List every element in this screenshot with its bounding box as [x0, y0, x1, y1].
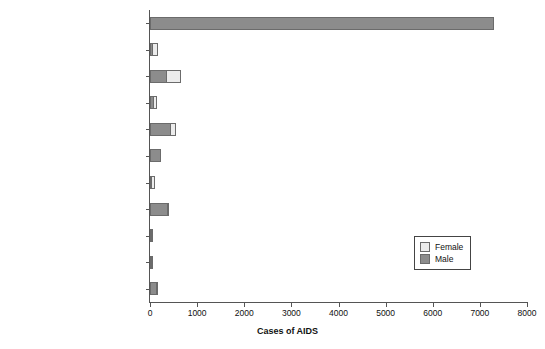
- legend-label-male: Male: [435, 254, 453, 264]
- x-axis-tick-label: 8000: [518, 308, 537, 318]
- chart-row: Mother to infant: [150, 169, 527, 196]
- chart-row: Heterosexual intercourse with partner fr…: [150, 90, 527, 117]
- bar-group: [150, 96, 157, 109]
- legend-item: Female: [420, 241, 463, 253]
- bar-group: [150, 70, 181, 83]
- x-axis-tick: [291, 302, 292, 307]
- x-axis-tick-label: 1000: [188, 308, 207, 318]
- chart-row: Sexual intercourse between men: [150, 10, 527, 37]
- bar-group: [150, 229, 153, 242]
- x-axis-tick: [150, 302, 151, 307]
- x-axis-tick: [339, 302, 340, 307]
- chart-row: Unclassified: [150, 275, 527, 302]
- bar-group: [150, 176, 155, 189]
- chart-row: Injecting drug use: [150, 116, 527, 143]
- bar-segment-female: [154, 96, 158, 109]
- x-axis-tick: [433, 302, 434, 307]
- x-axis-tick-label: 7000: [470, 308, 489, 318]
- x-axis-tick: [197, 302, 198, 307]
- x-axis-tick-label: 6000: [423, 308, 442, 318]
- legend-swatch-female: [420, 242, 430, 252]
- bar-segment-female: [171, 123, 176, 136]
- chart-row: Heterosexual intercourse with partner fr…: [150, 63, 527, 90]
- bar-segment-male: [150, 70, 167, 83]
- bar-segment-male: [150, 123, 171, 136]
- bar-group: [150, 203, 169, 216]
- bar-segment-female: [157, 282, 158, 295]
- x-axis-tick: [480, 302, 481, 307]
- bar-segment-male: [150, 203, 168, 216]
- bar-segment-female: [152, 229, 153, 242]
- x-axis-tick-label: 5000: [376, 308, 395, 318]
- x-axis-tick: [527, 302, 528, 307]
- legend-swatch-male: [420, 254, 430, 264]
- bar-segment-female: [152, 176, 155, 189]
- legend-item: Male: [420, 253, 463, 265]
- x-axis-tick: [386, 302, 387, 307]
- x-axis-title-label: Cases of AIDS: [257, 326, 318, 336]
- x-axis-tick-label: 3000: [282, 308, 301, 318]
- chart-row: Heterosexual intercourse with high risk …: [150, 37, 527, 64]
- aids-cases-bar-chart: Sexual intercourse between menHeterosexu…: [0, 0, 545, 349]
- bar-segment-female: [168, 203, 169, 216]
- x-axis-tick-label: 0: [148, 308, 153, 318]
- bar-group: [150, 123, 176, 136]
- bar-group: [150, 256, 152, 269]
- bar-segment-female: [153, 43, 159, 56]
- bar-group: [150, 17, 494, 30]
- bar-segment-male: [150, 149, 161, 162]
- bar-segment-male: [150, 282, 157, 295]
- chart-row: Injecting drug use or sexual intercourse…: [150, 143, 527, 170]
- bar-segment-female: [152, 256, 153, 269]
- chart-legend: FemaleMale: [414, 236, 471, 270]
- chart-row: Blood factor: [150, 196, 527, 223]
- bar-segment-female: [167, 70, 181, 83]
- x-axis-tick: [244, 302, 245, 307]
- x-axis-tick-label: 2000: [235, 308, 254, 318]
- bar-group: [150, 282, 158, 295]
- x-axis-title: Cases of AIDS: [0, 326, 545, 336]
- bar-group: [150, 149, 161, 162]
- bar-segment-male: [150, 17, 494, 30]
- x-axis-tick-label: 4000: [329, 308, 348, 318]
- bar-group: [150, 43, 158, 56]
- legend-label-female: Female: [435, 242, 463, 252]
